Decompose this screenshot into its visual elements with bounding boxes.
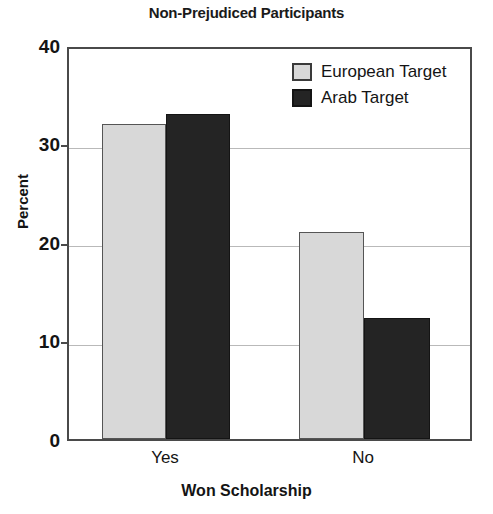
y-tick-label-40: 40 (0, 36, 60, 58)
bar-yes-european-target (102, 124, 166, 439)
x-axis-title: Won Scholarship (0, 482, 493, 500)
y-axis-title: Percent (14, 132, 31, 272)
bar-no-european-target (299, 232, 364, 439)
legend-label-arab-target: Arab Target (321, 88, 409, 108)
y-tick-label-10: 10 (0, 331, 60, 353)
legend-swatch-icon-european-target (292, 63, 312, 81)
bar-no-arab-target (364, 318, 430, 439)
bar-yes-arab-target (166, 114, 230, 439)
legend-swatch-icon-arab-target (292, 89, 312, 107)
y-tick-label-0: 0 (0, 430, 60, 452)
legend-label-european-target: European Target (321, 62, 446, 82)
chart-title: Non-Prejudiced Participants (0, 4, 493, 21)
bar-chart-figure: Non-Prejudiced Participants 40 30 20 10 … (0, 0, 493, 514)
legend-item-european-target: European Target (292, 60, 446, 84)
x-tick-label-yes: Yes (105, 448, 225, 468)
legend: European Target Arab Target (292, 60, 446, 112)
legend-item-arab-target: Arab Target (292, 86, 446, 110)
x-tick-label-no: No (303, 448, 423, 468)
